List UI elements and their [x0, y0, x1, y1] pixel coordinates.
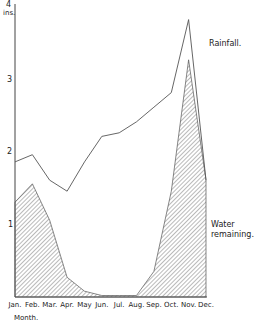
- x-tick-sep: Sep.: [146, 301, 161, 309]
- x-tick-dec: Dec.: [198, 301, 214, 309]
- y-unit-label: ins.: [3, 9, 15, 17]
- water-remaining-area: [15, 60, 206, 297]
- x-tick-may: May: [77, 301, 91, 309]
- x-tick-jun: Jun.: [95, 301, 108, 309]
- x-tick-mar: Mar.: [42, 301, 57, 309]
- water-legend-label-1: Water: [211, 220, 235, 229]
- x-tick-nov: Nov.: [181, 301, 196, 309]
- rainfall-chart: [0, 0, 258, 324]
- y-tick-4: 4: [6, 0, 11, 9]
- x-tick-jul: Jul.: [114, 301, 125, 309]
- rainfall-legend-label: Rainfall.: [209, 39, 241, 48]
- y-tick-3: 3: [7, 75, 12, 84]
- x-tick-jan: Jan.: [8, 301, 21, 309]
- x-tick-apr: Apr.: [60, 301, 74, 309]
- water-legend-label-2: remaining.: [211, 230, 254, 239]
- x-tick-feb: Feb.: [25, 301, 40, 309]
- x-axis-title: Month.: [14, 314, 38, 323]
- y-tick-1: 1: [8, 220, 13, 229]
- x-tick-aug: Aug.: [129, 301, 145, 309]
- y-tick-2: 2: [7, 147, 12, 156]
- x-tick-oct: Oct.: [164, 301, 178, 309]
